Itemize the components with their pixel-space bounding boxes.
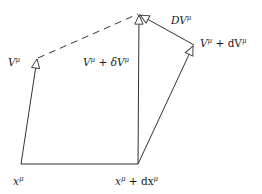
label-VdV-mid: + dV (212, 37, 242, 49)
label-Vd-sup2: μ (125, 56, 130, 64)
label-V-sup: μ (16, 56, 21, 64)
label-Vd-mid: + δV (95, 56, 124, 68)
label-Vd-base: V (83, 56, 91, 68)
label-x: xμ (13, 176, 23, 187)
label-x-plus-dx: xμ + dxμ (115, 176, 158, 187)
label-x-sup: μ (19, 175, 24, 183)
label-DV: DVμ (171, 15, 191, 26)
label-V: Vμ (8, 57, 20, 68)
label-VdV-sup2: μ (242, 37, 247, 45)
label-V-plus-dV: Vμ + dVμ (200, 38, 247, 49)
label-V-base: V (8, 56, 16, 68)
label-xdx-sup2: μ (154, 175, 159, 183)
vector-V (21, 59, 37, 164)
label-VdV-base: V (200, 37, 208, 49)
vector-V-plus-deltaV (138, 15, 139, 164)
label-V-plus-deltaV: Vμ + δVμ (83, 57, 129, 68)
parallel-transport-dashed-line (38, 14, 138, 58)
label-DV-base: DV (171, 14, 187, 26)
label-DV-sup: μ (187, 14, 192, 22)
label-xdx-mid: + dx (125, 175, 153, 187)
vector-V-plus-dV (138, 46, 193, 164)
diagram-canvas (0, 0, 262, 194)
